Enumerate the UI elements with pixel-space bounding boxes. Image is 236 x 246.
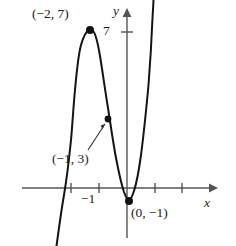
annotation-label-middle: (−1, 3) xyxy=(52,152,89,166)
point-marker-mid xyxy=(105,116,112,123)
point-marker-min xyxy=(125,197,133,205)
graph-figure: (−2, 7) (−1, 3) (0, −1) y x 7 −1 xyxy=(0,0,236,246)
graph-canvas xyxy=(0,0,236,246)
annotation-label-maximum: (−2, 7) xyxy=(32,7,69,21)
y-tick-label-7: 7 xyxy=(103,24,110,38)
annotation-label-minimum: (0, −1) xyxy=(131,206,168,220)
y-axis-label: y xyxy=(113,4,119,18)
point-marker-max xyxy=(86,26,94,34)
x-axis-arrow xyxy=(209,184,218,193)
x-tick-label-minus-1: −1 xyxy=(81,192,95,206)
y-axis-arrow xyxy=(123,8,132,17)
x-axis xyxy=(22,183,218,193)
x-axis-label: x xyxy=(204,196,210,210)
leader-arrow-mid xyxy=(101,124,105,129)
